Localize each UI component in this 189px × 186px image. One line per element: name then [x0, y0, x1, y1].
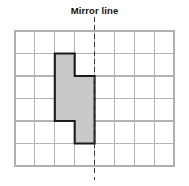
shaded-shape — [55, 54, 95, 144]
grid-canvas — [0, 0, 189, 186]
mirror-line-figure: Mirror line — [0, 0, 189, 186]
